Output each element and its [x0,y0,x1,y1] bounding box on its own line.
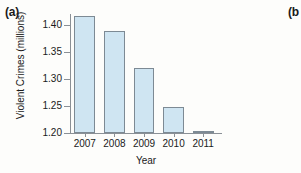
y-tick-mark [64,25,70,26]
y-tick-mark [64,52,70,53]
y-tick-label: 1.20 [22,127,62,138]
panel-label-b: (b [288,5,299,19]
y-tick-label: 1.25 [22,100,62,111]
x-tick-label-2009: 2009 [129,138,159,149]
y-tick-label: 1.40 [22,19,62,30]
y-tick-mark [64,133,70,134]
y-axis-title: Violent Crimes (millions) [15,7,26,125]
bar-2008 [104,31,125,133]
x-tick-mark [114,133,115,137]
y-tick-mark [64,106,70,107]
y-axis-line [70,14,71,134]
x-tick-label-2010: 2010 [159,138,189,149]
bar-2010 [163,107,184,133]
y-tick-label: 1.35 [22,46,62,57]
x-tick-label-2011: 2011 [188,138,218,149]
figure-panel-a: (a) (b 1.201.251.301.351.40 200720082009… [0,0,301,173]
y-tick-label-wrap: 1.20 [18,133,62,134]
x-tick-label-2008: 2008 [99,138,129,149]
bar-2009 [134,68,155,133]
x-tick-mark [144,133,145,137]
x-tick-mark [203,133,204,137]
y-tick-label: 1.30 [22,73,62,84]
y-tick-mark [64,79,70,80]
bar-2007 [74,16,95,133]
x-tick-mark [85,133,86,137]
x-tick-label-2007: 2007 [70,138,100,149]
x-tick-mark [174,133,175,137]
x-axis-title: Year [70,155,222,166]
